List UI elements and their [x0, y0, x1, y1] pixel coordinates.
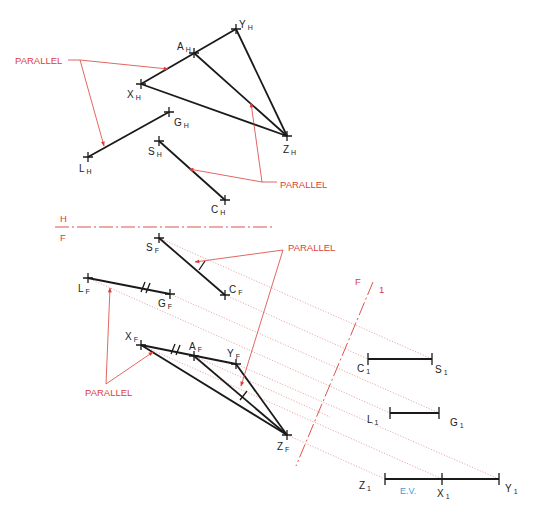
svg-text:AF: AF — [189, 341, 202, 353]
svg-text:YH: YH — [239, 19, 253, 31]
svg-text:GH: GH — [174, 117, 189, 129]
auxiliary-view: C1 S1 L1 G1 Z1 X1 Y1 E.V. — [357, 353, 518, 500]
svg-text:PARALLEL: PARALLEL — [288, 242, 335, 253]
svg-text:X1: X1 — [437, 488, 450, 500]
svg-text:ZF: ZF — [277, 441, 289, 453]
svg-text:LF: LF — [78, 283, 90, 295]
true-length-label: E.V. — [400, 486, 416, 496]
svg-text:Y1: Y1 — [505, 483, 518, 495]
svg-text:PARALLEL: PARALLEL — [280, 179, 327, 190]
parallel-annotation-4: PARALLEL — [85, 288, 153, 398]
projection-lines — [88, 238, 499, 479]
svg-text:XH: XH — [127, 89, 141, 101]
svg-text:G1: G1 — [450, 417, 464, 429]
point-labels-f: SF CF LF GF XF AF YF ZF — [78, 242, 289, 453]
fold-label-1: 1 — [379, 284, 384, 295]
descriptive-geometry-diagram: H F F 1 XH AH YH ZH GH LH — [0, 0, 535, 521]
svg-text:CF: CF — [229, 284, 243, 296]
svg-text:S1: S1 — [435, 364, 448, 376]
svg-text:XF: XF — [125, 331, 138, 343]
point-labels-h: XH AH YH ZH GH LH SH CH — [79, 19, 296, 216]
fold-line-f-1: F 1 — [296, 276, 384, 466]
svg-text:CH: CH — [211, 204, 225, 216]
svg-text:AH: AH — [177, 41, 191, 53]
svg-text:PARALLEL: PARALLEL — [15, 55, 62, 66]
svg-text:PARALLEL: PARALLEL — [85, 387, 132, 398]
fold-label-h: H — [60, 213, 67, 224]
parallel-annotation-2: PARALLEL — [189, 103, 327, 190]
svg-text:GF: GF — [158, 298, 172, 310]
single-hatch-mark — [199, 261, 205, 270]
fold-label-f: F — [355, 276, 361, 287]
svg-text:LH: LH — [79, 163, 92, 175]
svg-text:Z1: Z1 — [359, 480, 371, 492]
horizontal-view: XH AH YH ZH GH LH SH CH — [79, 19, 296, 216]
double-hatch-mark — [141, 282, 150, 293]
svg-text:SF: SF — [146, 242, 159, 254]
fold-label-f: F — [60, 232, 66, 243]
point-markers-f — [83, 233, 292, 440]
svg-text:SH: SH — [148, 146, 162, 158]
svg-text:YF: YF — [227, 348, 240, 360]
point-markers-1 — [368, 353, 499, 485]
front-view: SF CF LF GF XF AF YF ZF — [78, 233, 292, 453]
svg-text:ZH: ZH — [283, 144, 296, 156]
parallel-annotation-1: PARALLEL — [15, 55, 168, 146]
